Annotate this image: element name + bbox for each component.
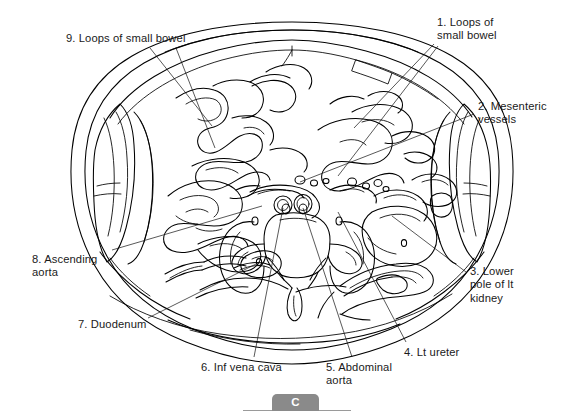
label-3-lower-pole-of-lt-kidney: 3. Lower pole of lt kidney [470, 265, 514, 305]
left-ureter-structure [318, 263, 433, 320]
left-flank-musculature [93, 104, 190, 319]
panel-letter-text: C [291, 397, 299, 409]
leader-line-6 [254, 208, 283, 357]
leader-line-1a [354, 44, 434, 128]
label-9-loops-of-small-bowel: 9. Loops of small bowel [66, 32, 186, 45]
figure-container: 1. Loops of small bowel 2. Mesenteric ve… [0, 0, 584, 416]
label-2-mesenteric-vessels: 2. Mesenteric vessels [478, 100, 547, 127]
body-wall-outer-contour [71, 22, 513, 364]
left-kidney-lower-pole [362, 190, 437, 266]
label-4-lt-ureter: 4. Lt ureter [404, 346, 459, 359]
vertebral-body [264, 213, 330, 288]
panel-letter-badge: C [272, 394, 319, 411]
leader-line-7 [148, 262, 260, 318]
label-7-duodenum: 7. Duodenum [78, 318, 146, 331]
vertebral-processes [232, 244, 362, 321]
small-bowel-loops-upper-left [176, 65, 312, 190]
label-1-loops-of-small-bowel: 1. Loops of small bowel [437, 16, 497, 43]
leader-line-2 [300, 114, 474, 182]
leader-lines [112, 44, 474, 357]
anatomy-line-drawing [0, 0, 584, 416]
label-5-abdominal-aorta: 5. Abdominal aorta [326, 361, 392, 388]
leader-line-8 [112, 206, 262, 250]
label-8-ascending-aorta: 8. Ascending aorta [32, 253, 97, 280]
label-6-inf-vena-cava: 6. Inf vena cava [201, 361, 282, 374]
